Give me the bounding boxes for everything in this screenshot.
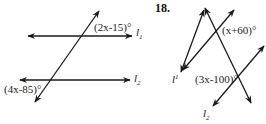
line-label-l2: l2: [203, 107, 210, 122]
figures-svg: (2x-15)° (4x-85)° l1 l2 18. (x+60)° (3x-…: [0, 0, 266, 124]
right-figure: 18. (x+60)° (3x-100)° l1 l2: [155, 1, 264, 122]
line-label-l2: l2: [134, 72, 141, 87]
line-label-l1: l1: [172, 73, 179, 85]
angle-label-top: (x+60)°: [222, 24, 256, 37]
angle-label-bottom: (3x-100)°: [195, 73, 238, 86]
line-l1-right: [181, 10, 204, 72]
angle-label-bottom: (4x-85)°: [4, 83, 41, 96]
geometry-figure-canvas: (2x-15)° (4x-85)° l1 l2 18. (x+60)° (3x-…: [0, 0, 266, 124]
problem-number: 18.: [155, 1, 170, 15]
line-l1: [183, 10, 234, 70]
transversal-left: [35, 11, 99, 102]
line-label-l1: l1: [136, 26, 143, 41]
angle-label-top: (2x-15)°: [94, 21, 131, 34]
left-figure: (2x-15)° (4x-85)° l1 l2: [4, 11, 143, 102]
